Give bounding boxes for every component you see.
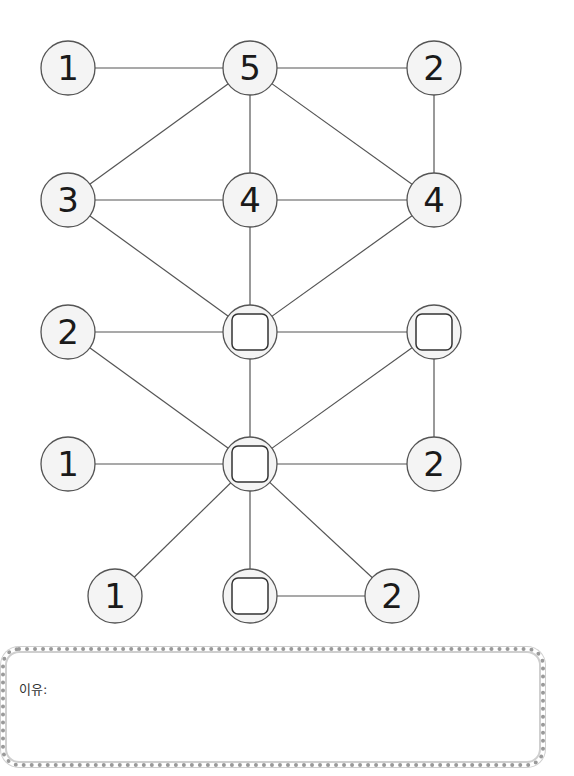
node-label: 1 [57,48,79,88]
edge-r1c2-r2c1 [68,68,250,200]
node-label: 4 [239,180,261,220]
number-node-r2c3: 4 [407,173,461,227]
node-label: 5 [239,48,261,88]
edge-r4c2-r5c3 [250,464,392,596]
edge-r2c3-r3c2 [250,200,434,332]
node-label: 2 [423,48,445,88]
number-node-r3c1: 2 [41,305,95,359]
number-node-r1c1: 1 [41,41,95,95]
reason-answer-box[interactable]: 이유: [1,647,545,767]
number-node-r2c1: 3 [41,173,95,227]
node-label: 1 [104,576,126,616]
node-label: 1 [57,444,79,484]
node-label: 4 [423,180,445,220]
answer-blank-square[interactable] [232,578,268,614]
blank-node-r3c2[interactable] [223,305,277,359]
blank-node-r4c2[interactable] [223,437,277,491]
node-label: 2 [381,576,403,616]
number-node-r1c2: 5 [223,41,277,95]
edge-r4c2-r5c1 [115,464,250,596]
edge-r3c3-r4c2 [250,332,434,464]
number-node-r2c2: 4 [223,173,277,227]
edge-r2c1-r3c2 [68,200,250,332]
number-node-r1c3: 2 [407,41,461,95]
number-node-r5c3: 2 [365,569,419,623]
number-node-r4c3: 2 [407,437,461,491]
answer-blank-square[interactable] [232,314,268,350]
reason-label: 이유: [19,679,47,698]
edge-r3c1-r4c2 [68,332,250,464]
node-label: 2 [423,444,445,484]
blank-node-r5c2[interactable] [223,569,277,623]
node-label: 3 [57,180,79,220]
edge-r1c2-r2c3 [250,68,434,200]
answer-blank-square[interactable] [232,446,268,482]
number-node-r4c1: 1 [41,437,95,491]
number-node-r5c1: 1 [88,569,142,623]
node-label: 2 [57,312,79,352]
answer-blank-square[interactable] [416,314,452,350]
blank-node-r3c3[interactable] [407,305,461,359]
number-graph: 15234421212 [0,0,574,640]
